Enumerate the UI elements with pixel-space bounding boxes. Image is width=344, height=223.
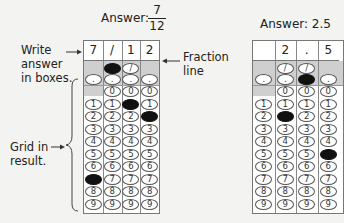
digit-bubble-0[interactable]: 0 <box>320 86 337 97</box>
digit-bubble-7[interactable]: 7 <box>320 174 337 185</box>
digit-bubble-5[interactable]: 5 <box>298 149 315 160</box>
digit-bubble-7[interactable]: 7 <box>255 174 272 185</box>
digit-bubble-8[interactable]: 8 <box>85 186 102 197</box>
digit-bubble-5[interactable]: 5 <box>277 149 294 160</box>
digit-bubble-3[interactable]: 3 <box>122 124 139 135</box>
digit-bubble-0[interactable]: 0 <box>104 86 121 97</box>
digit-bubble-6[interactable]: 6 <box>277 161 294 172</box>
decimal-bubble[interactable]: . <box>104 74 121 85</box>
digit-bubble-7[interactable]: 7 <box>85 174 102 185</box>
digit-bubble-1[interactable]: 1 <box>320 99 337 110</box>
digit-bubble-5[interactable]: 5 <box>141 149 158 160</box>
answer-grid-left: 7.123456789//.01234567891/.01234567892.0… <box>83 40 160 214</box>
digit-bubble-9[interactable]: 9 <box>104 199 121 210</box>
digit-bubble-4[interactable]: 4 <box>320 136 337 147</box>
digit-bubble-4[interactable]: 4 <box>104 136 121 147</box>
digit-bubble-3[interactable]: 3 <box>104 124 121 135</box>
digit-bubble-1[interactable]: 1 <box>104 99 121 110</box>
digit-bubble-7[interactable]: 7 <box>104 174 121 185</box>
digit-bubble-5[interactable]: 5 <box>122 149 139 160</box>
digit-bubble-7[interactable]: 7 <box>277 174 294 185</box>
digit-bubble-4[interactable]: 4 <box>122 136 139 147</box>
digit-bubble-1[interactable]: 1 <box>141 99 158 110</box>
digit-bubble-2[interactable]: 2 <box>141 111 158 122</box>
digit-bubble-1[interactable]: 1 <box>85 99 102 110</box>
digit-bubble-9[interactable]: 9 <box>298 199 315 210</box>
digit-bubble-3[interactable]: 3 <box>298 124 315 135</box>
digit-bubble-3[interactable]: 3 <box>277 124 294 135</box>
shaded-zero-cell <box>253 85 275 96</box>
digit-bubble-2[interactable]: 2 <box>298 111 315 122</box>
answer-box[interactable]: 2 <box>275 41 297 61</box>
digit-bubble-5[interactable]: 5 <box>85 149 102 160</box>
answer-box[interactable]: 1 <box>122 41 141 61</box>
digit-bubble-6[interactable]: 6 <box>141 161 158 172</box>
digit-bubble-8[interactable]: 8 <box>320 186 337 197</box>
digit-bubble-7[interactable]: 7 <box>298 174 315 185</box>
digit-bubble-0[interactable]: 0 <box>122 86 139 97</box>
digit-bubble-3[interactable]: 3 <box>85 124 102 135</box>
digit-bubble-6[interactable]: 6 <box>85 161 102 172</box>
digit-bubble-3[interactable]: 3 <box>141 124 158 135</box>
digit-bubble-9[interactable]: 9 <box>255 199 272 210</box>
digit-bubble-4[interactable]: 4 <box>298 136 315 147</box>
digit-bubble-8[interactable]: 8 <box>122 186 139 197</box>
digit-bubble-8[interactable]: 8 <box>277 186 294 197</box>
decimal-bubble[interactable]: . <box>141 74 158 85</box>
digit-bubble-2[interactable]: 2 <box>104 111 121 122</box>
digit-bubble-2[interactable]: 2 <box>277 111 294 122</box>
digit-bubble-0[interactable]: 0 <box>277 86 294 97</box>
digit-bubble-9[interactable]: 9 <box>320 199 337 210</box>
decimal-bubble[interactable]: . <box>320 74 337 85</box>
answer-box[interactable]: 2 <box>140 41 159 61</box>
digit-bubble-6[interactable]: 6 <box>122 161 139 172</box>
grid-in-result-label: Grid in result. <box>10 140 48 168</box>
digit-bubble-2[interactable]: 2 <box>255 111 272 122</box>
digit-bubble-1[interactable]: 1 <box>255 99 272 110</box>
answer-box[interactable]: . <box>296 41 318 61</box>
fraction-denominator: 12 <box>147 19 167 33</box>
fraction-line-label: Fraction line <box>183 50 229 78</box>
digit-bubble-4[interactable]: 4 <box>255 136 272 147</box>
digit-bubble-7[interactable]: 7 <box>122 174 139 185</box>
digit-bubble-1[interactable]: 1 <box>277 99 294 110</box>
digit-bubble-6[interactable]: 6 <box>298 161 315 172</box>
digit-bubble-6[interactable]: 6 <box>255 161 272 172</box>
digit-bubble-4[interactable]: 4 <box>141 136 158 147</box>
digit-bubble-5[interactable]: 5 <box>255 149 272 160</box>
slash-bubble[interactable]: / <box>277 63 294 74</box>
digit-bubble-2[interactable]: 2 <box>85 111 102 122</box>
answer-box[interactable]: 5 <box>318 41 340 61</box>
digit-bubble-6[interactable]: 6 <box>104 161 121 172</box>
digit-bubble-4[interactable]: 4 <box>277 136 294 147</box>
digit-bubble-4[interactable]: 4 <box>85 136 102 147</box>
digit-bubble-8[interactable]: 8 <box>141 186 158 197</box>
digit-bubble-8[interactable]: 8 <box>104 186 121 197</box>
digit-bubble-6[interactable]: 6 <box>320 161 337 172</box>
digit-bubble-3[interactable]: 3 <box>320 124 337 135</box>
digit-bubble-2[interactable]: 2 <box>122 111 139 122</box>
slash-bubble[interactable]: / <box>104 63 121 74</box>
answer-box[interactable]: 7 <box>84 41 103 61</box>
digit-bubble-9[interactable]: 9 <box>85 199 102 210</box>
digit-bubble-0[interactable]: 0 <box>141 86 158 97</box>
digit-bubble-9[interactable]: 9 <box>277 199 294 210</box>
digit-bubble-1[interactable]: 1 <box>298 99 315 110</box>
digit-bubble-1[interactable]: 1 <box>122 99 139 110</box>
digit-bubble-2[interactable]: 2 <box>320 111 337 122</box>
digit-bubble-8[interactable]: 8 <box>255 186 272 197</box>
digit-bubble-9[interactable]: 9 <box>141 199 158 210</box>
digit-bubble-5[interactable]: 5 <box>320 149 337 160</box>
digit-bubble-7[interactable]: 7 <box>141 174 158 185</box>
digit-bubble-9[interactable]: 9 <box>122 199 139 210</box>
digit-bubble-0[interactable]: 0 <box>298 86 315 97</box>
shaded-zero-cell <box>84 85 103 96</box>
answer-box[interactable]: / <box>103 41 122 61</box>
column-divider <box>318 41 319 213</box>
digit-bubble-3[interactable]: 3 <box>255 124 272 135</box>
digit-bubble-8[interactable]: 8 <box>298 186 315 197</box>
decimal-bubble[interactable]: . <box>277 74 294 85</box>
digit-bubble-5[interactable]: 5 <box>104 149 121 160</box>
decimal-bubble[interactable]: . <box>85 74 102 85</box>
answer-box[interactable] <box>253 41 275 61</box>
